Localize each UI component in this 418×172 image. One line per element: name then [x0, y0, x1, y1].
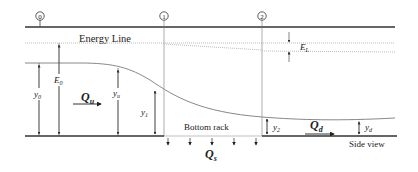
- upstream-flow-Qu: Qu: [73, 90, 101, 106]
- section-marker-0: 0: [36, 12, 44, 27]
- section-marker-1: 1: [160, 12, 168, 136]
- Qd-label: Qd: [310, 118, 324, 134]
- side-view-label: Side view: [349, 139, 385, 149]
- bottom-rack-label: Bottom rack: [184, 122, 229, 132]
- y2-label: y2: [272, 122, 280, 133]
- section-label-1: 1: [162, 13, 166, 21]
- energy-line: [25, 43, 395, 52]
- Qs-label: Qs: [205, 147, 217, 163]
- E0-dimension: E0: [52, 43, 66, 136]
- downstream-flow-Qd: Qd: [305, 118, 334, 134]
- y2-dimension: y2: [267, 119, 280, 134]
- y0-dimension: y0: [32, 63, 46, 136]
- energy-line-label: Energy Line: [79, 33, 131, 44]
- y1-dimension: y1: [139, 91, 155, 134]
- section-label-2: 2: [260, 13, 264, 21]
- yu-dimension: yu: [111, 68, 125, 136]
- side-view-diagram: 0 1 2 Energy Line EL y0: [0, 0, 418, 172]
- yd-dimension: yd: [359, 121, 373, 134]
- yd-label: yd: [364, 122, 373, 133]
- energy-loss-marker: EL: [289, 32, 310, 62]
- rack-outflow-arrows: [168, 138, 256, 145]
- EL-label: EL: [299, 42, 310, 53]
- section-label-0: 0: [38, 13, 42, 21]
